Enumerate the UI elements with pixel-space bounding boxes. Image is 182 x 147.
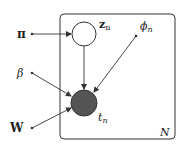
label-pi: π [17, 27, 26, 41]
observed-node-t [71, 90, 97, 116]
label-t: tn [98, 111, 108, 125]
label-z: zn [99, 18, 110, 32]
plate-label-n: N [159, 126, 170, 139]
edge-beta-t [32, 73, 71, 96]
latent-node-z [72, 22, 96, 46]
label-w: W [9, 121, 24, 135]
label-beta: β [16, 67, 23, 80]
edge-phi-t [94, 36, 136, 92]
plate-diagram: π β W zn ϕn tn N [0, 0, 182, 147]
edge-w-t [32, 108, 71, 128]
label-phi: ϕn [140, 20, 153, 34]
